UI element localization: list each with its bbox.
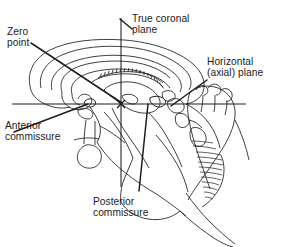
midbrain-cerebral-peduncle: [104, 112, 133, 158]
massa-intermedia: [122, 94, 138, 104]
inferior-colliculus: [175, 113, 189, 127]
brainstem-posterior-border: [149, 113, 182, 167]
cerebral-hemisphere-outline: [29, 39, 204, 104]
cerebellum-vertical-fissure-3: [225, 101, 227, 115]
label-true-coronal-plane: True coronal plane: [132, 13, 189, 36]
pituitary-stalk: [84, 120, 95, 145]
label-posterior-commissure: Posterior commissure: [93, 196, 148, 219]
pituitary-gland: [77, 145, 101, 168]
horizontal-axial-leader: [171, 80, 207, 106]
temporal-lobe-outline: [97, 142, 158, 195]
posterior-commissure-leader: [139, 104, 148, 191]
midbrain-anterior-border: [112, 108, 149, 168]
label-zero-point: Zero point: [7, 26, 29, 49]
cerebellar-tonsil: [190, 127, 206, 146]
cerebral-hemisphere-inferior-outline: [30, 86, 70, 108]
occipital-inferior-surface: [235, 120, 249, 160]
medulla-anterior: [180, 211, 233, 247]
fourth-ventricle: [156, 135, 188, 192]
inferior-brain-contour: [158, 195, 186, 216]
corpus-callosum-rostrum: [72, 94, 80, 105]
cerebellum-notch: [189, 120, 202, 128]
anterior-commissure-structure: [84, 99, 95, 107]
superior-colliculus: [168, 99, 185, 113]
label-anterior-commissure: Anterior commissure: [5, 120, 60, 143]
label-horizontal-axial-plane: Horizontal (axial) plane: [207, 56, 263, 79]
true-coronal-leader: [120, 19, 132, 29]
pineal-body: [162, 91, 175, 102]
cerebellum-upper-lobule-2: [208, 84, 221, 95]
